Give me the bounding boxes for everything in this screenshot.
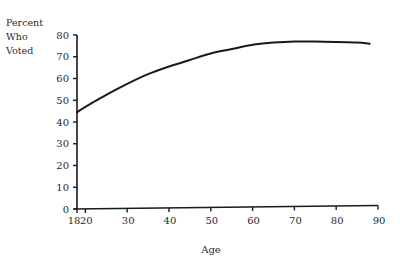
y-axis-label-line-3: Voted <box>5 45 33 56</box>
y-axis-label-line-1: Percent <box>6 17 43 28</box>
y-axis: 01020304050607080 <box>56 30 77 215</box>
y-axis-label: Percent Who Voted <box>5 17 43 56</box>
y-tick-label: 0 <box>63 204 69 215</box>
x-tick-label: 40 <box>164 215 177 226</box>
x-tick-label: 80 <box>331 215 344 226</box>
y-tick-label: 30 <box>56 138 69 149</box>
x-axis-line <box>74 206 378 210</box>
x-tick-label: 60 <box>247 215 260 226</box>
y-tick-label: 40 <box>56 117 69 128</box>
y-tick-label: 60 <box>56 73 69 84</box>
x-tick-label: 90 <box>373 215 386 226</box>
x-tick-label: 30 <box>122 215 135 226</box>
y-axis-label-line-2: Who <box>6 31 28 42</box>
line-chart: Percent Who Voted 01020304050607080 1820… <box>0 0 400 269</box>
x-axis: 182030405060708090 <box>68 206 386 227</box>
y-tick-label: 20 <box>56 160 69 171</box>
y-tick-label: 50 <box>56 95 69 106</box>
y-tick-label: 10 <box>56 182 69 193</box>
x-tick-label: 50 <box>205 215 218 226</box>
data-line <box>77 41 370 112</box>
y-tick-label: 80 <box>56 30 69 41</box>
y-tick-label: 70 <box>56 51 69 62</box>
x-axis-label: Age <box>200 244 221 255</box>
x-tick-label: 18 <box>68 215 81 226</box>
x-tick-label: 20 <box>80 215 93 226</box>
x-tick-label: 70 <box>289 215 302 226</box>
